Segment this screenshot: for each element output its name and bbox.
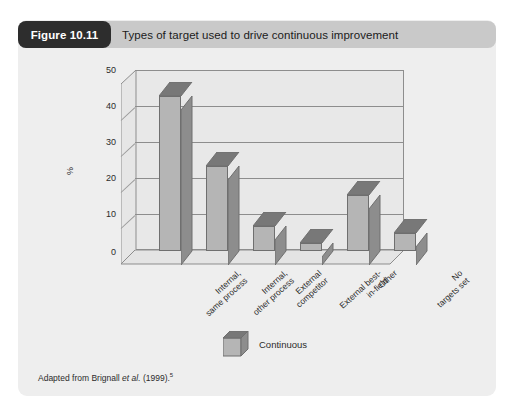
bar-no-targets-set [394, 70, 416, 251]
bar-top-face [159, 82, 193, 97]
legend-item-label: Continuous [259, 339, 307, 350]
bar-external-best-in-field [300, 70, 322, 251]
bar-top-face [347, 181, 381, 196]
bar-side-face [275, 226, 287, 251]
figure-title: Types of target used to drive continuous… [122, 21, 398, 48]
source-note-prefix: Adapted from Brignall [38, 373, 122, 383]
bar-side-face [181, 96, 193, 251]
bar-front-face [300, 243, 322, 251]
bar-front-face [394, 233, 416, 251]
bar-top-face [206, 152, 240, 167]
y-tick-40: 40 [94, 101, 116, 111]
source-note-italic: et al. [122, 373, 140, 383]
y-tick-30: 30 [94, 137, 116, 147]
bar-side-face [369, 195, 381, 251]
source-note-superscript: 5 [170, 372, 173, 378]
figure-number-badge: Figure 10.11 [18, 21, 111, 48]
x-tick-no-targets-set: Notargets set [428, 268, 471, 309]
figure-header-bar: Figure 10.11 Types of target used to dri… [18, 21, 496, 48]
continuous-3d-cube-swatch [223, 331, 249, 357]
source-note: Adapted from Brignall et al. (1999).5 [38, 372, 173, 383]
bar-internal-same-process [159, 70, 181, 251]
bar-side-face [416, 233, 428, 251]
y-tick-0: 0 [94, 247, 116, 257]
bar-front-face [206, 166, 228, 251]
bar-top-face [300, 229, 334, 244]
bar-internal-other-process [206, 70, 228, 251]
bar-top-face [394, 219, 428, 234]
y-axis-tick-labels: 50 40 30 20 10 0 [82, 70, 116, 270]
y-tick-50: 50 [94, 65, 116, 75]
bar-other [347, 70, 369, 251]
y-axis-title: % [65, 167, 75, 175]
x-tick-external-competitor: Externalcompetitor [287, 268, 330, 309]
x-tick-internal-same-process: Internal,same process [197, 268, 250, 318]
chart-legend: Continuous [223, 331, 307, 357]
bar-side-face [228, 166, 240, 251]
bar-front-face [159, 96, 181, 251]
chart-region: 50 40 30 20 10 0 % [18, 48, 496, 396]
bar-external-competitor [253, 70, 275, 251]
y-tick-20: 20 [94, 173, 116, 183]
bar-front-face [253, 226, 275, 251]
bar-front-face [347, 195, 369, 251]
bar-side-face [322, 243, 334, 251]
bars-layer [121, 70, 404, 264]
bar-top-face [253, 212, 287, 227]
y-tick-10: 10 [94, 209, 116, 219]
source-note-suffix: (1999). [141, 373, 170, 383]
